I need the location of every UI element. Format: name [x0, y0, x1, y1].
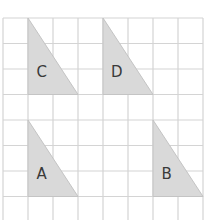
triangle-grid-figure: CDAB — [0, 0, 213, 220]
triangles-group: CDAB — [28, 18, 203, 197]
triangle-label-b: B — [162, 165, 172, 183]
triangle-label-d: D — [111, 63, 123, 81]
triangle-label-c: C — [37, 63, 47, 81]
triangle-label-a: A — [37, 165, 48, 183]
